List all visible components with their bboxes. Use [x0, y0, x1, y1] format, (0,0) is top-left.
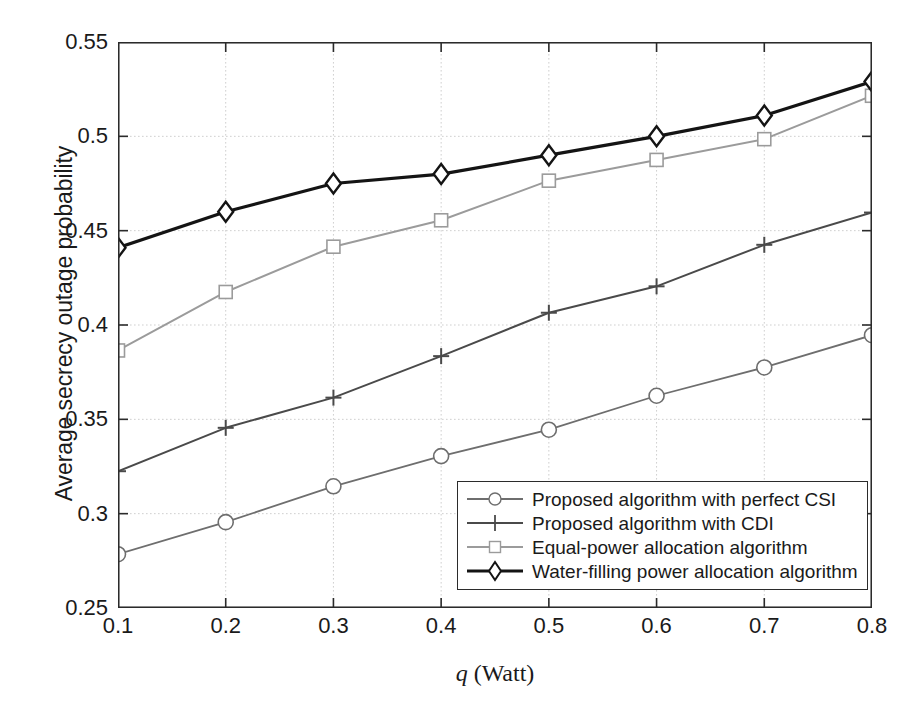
data-point-diamond	[326, 174, 341, 194]
x-tick-label: 0.1	[78, 615, 158, 637]
data-point-plus	[756, 237, 772, 253]
legend-sample-square	[465, 536, 525, 558]
x-tick-label: 0.7	[724, 615, 804, 637]
legend-item-0: Proposed algorithm with perfect CSI	[465, 487, 858, 511]
legend-sample-diamond	[465, 560, 525, 582]
legend-item-2: Equal-power allocation algorithm	[465, 535, 858, 559]
data-point-plus	[649, 278, 665, 294]
data-point-diamond	[757, 106, 772, 126]
data-point-circle	[489, 493, 501, 505]
x-tick-label: 0.5	[509, 615, 589, 637]
legend-sample-circle	[465, 488, 525, 510]
data-point-square	[650, 153, 663, 166]
legend-label: Water-filling power allocation algorithm	[532, 562, 858, 581]
legend-item-1: Proposed algorithm with CDI	[465, 511, 858, 535]
y-tick-label: 0.45	[36, 220, 108, 242]
data-point-plus	[487, 515, 503, 531]
series-2	[118, 89, 872, 357]
data-point-circle	[757, 360, 772, 375]
data-point-plus	[433, 348, 449, 364]
series-line	[118, 213, 872, 472]
data-point-diamond	[489, 562, 501, 580]
data-point-square	[758, 133, 771, 146]
x-tick-label: 0.6	[617, 615, 697, 637]
x-tick-label: 0.2	[186, 615, 266, 637]
x-tick-label: 0.4	[401, 615, 481, 637]
data-point-circle	[649, 388, 664, 403]
legend-label: Equal-power allocation algorithm	[532, 538, 808, 557]
series-line	[118, 82, 872, 248]
data-point-square	[542, 174, 555, 187]
x-tick-label: 0.8	[832, 615, 911, 637]
x-axis-title: q (Watt)	[118, 660, 872, 687]
legend-item-3: Water-filling power allocation algorithm	[465, 559, 858, 583]
y-tick-label: 0.55	[36, 31, 108, 53]
data-point-circle	[326, 479, 341, 494]
legend-sample-plus	[465, 512, 525, 534]
legend-label: Proposed algorithm with perfect CSI	[532, 490, 836, 509]
x-axis-title-unit: (Watt)	[474, 660, 535, 686]
data-point-diamond	[218, 202, 233, 222]
data-point-diamond	[541, 145, 556, 165]
chart-legend: Proposed algorithm with perfect CSIPropo…	[457, 481, 868, 590]
y-tick-label: 0.4	[36, 314, 108, 336]
x-axis-title-variable: q	[456, 660, 468, 686]
data-point-plus	[325, 390, 341, 406]
x-tick-label: 0.3	[293, 615, 373, 637]
data-point-plus	[218, 420, 234, 436]
data-point-diamond	[434, 164, 449, 184]
legend-label: Proposed algorithm with CDI	[532, 514, 774, 533]
y-tick-label: 0.35	[36, 408, 108, 430]
y-axis-tick-labels: 0.250.30.350.40.450.50.55	[0, 0, 108, 709]
data-point-circle	[218, 515, 233, 530]
y-tick-label: 0.5	[36, 125, 108, 147]
data-point-circle	[541, 422, 556, 437]
data-point-square	[219, 285, 232, 298]
data-point-circle	[434, 449, 449, 464]
data-point-diamond	[649, 126, 664, 146]
data-point-square	[435, 214, 448, 227]
data-point-plus	[541, 305, 557, 321]
data-point-square	[490, 542, 501, 553]
y-tick-label: 0.3	[36, 503, 108, 525]
series-3	[118, 72, 872, 258]
data-point-square	[327, 240, 340, 253]
figure-chart: Average secrecy outage probability q (Wa…	[0, 0, 911, 709]
series-1	[118, 205, 872, 480]
